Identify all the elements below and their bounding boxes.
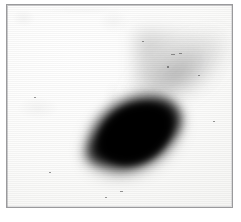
emulsion-speck bbox=[142, 41, 144, 42]
blob-body bbox=[68, 74, 198, 195]
emulsion-speck bbox=[105, 197, 107, 198]
emulsion-speck bbox=[49, 172, 51, 173]
blob-core bbox=[88, 91, 182, 178]
blob-tail bbox=[59, 118, 140, 194]
emulsion-speck bbox=[34, 97, 36, 98]
blob-cap bbox=[126, 79, 202, 153]
emulsion-speck bbox=[171, 54, 175, 55]
plate-border-frame bbox=[6, 4, 233, 208]
emulsion-speck bbox=[167, 66, 169, 68]
emulsion-speck bbox=[179, 53, 182, 54]
plume-halo bbox=[91, 4, 233, 161]
plume-streak bbox=[137, 33, 233, 85]
plate-figure bbox=[0, 0, 241, 222]
scanline-texture bbox=[7, 5, 232, 207]
emulsion-speck bbox=[120, 191, 123, 192]
emulsion-speck bbox=[213, 121, 215, 122]
central-blob bbox=[65, 79, 197, 197]
blob-outer-halo bbox=[50, 59, 212, 208]
paper-mottle-texture bbox=[7, 5, 232, 207]
emulsion-field bbox=[7, 5, 232, 207]
emulsion-speck bbox=[198, 75, 200, 76]
